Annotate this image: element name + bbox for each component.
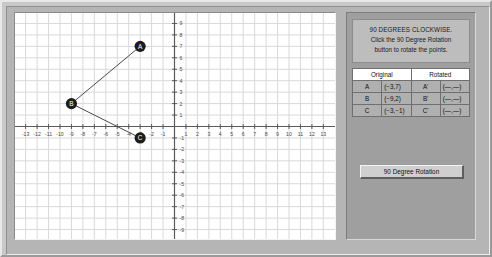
cell-rotated-coords: (—,—) (440, 92, 469, 104)
y-axis-tick-label: 2 (180, 101, 183, 107)
column-header-original: Original (353, 68, 412, 80)
x-axis-tick-label: 5 (230, 131, 233, 137)
cell-original-coords: (−3,−1) (382, 104, 411, 116)
row-label-rotated: A' (411, 80, 440, 92)
table-row: A(−3,7)A'(—,—) (353, 80, 470, 92)
coordinate-graph-panel[interactable]: -13-12-11-10-9-8-7-6-5-4-3-2-11234567891… (14, 12, 336, 240)
y-axis-tick-label: 4 (180, 78, 183, 84)
y-axis-tick-label: 1 (180, 112, 183, 118)
points-table: Original Rotated A(−3,7)A'(—,—)B(−9,2)B'… (352, 68, 470, 117)
x-axis-tick-label: -1 (161, 131, 166, 137)
y-axis-tick-label: -8 (180, 215, 185, 221)
x-axis-tick-label: 4 (219, 131, 222, 137)
x-axis-tick-label: -8 (81, 131, 86, 137)
y-axis-tick-label: -9 (180, 227, 185, 233)
y-axis-tick-label: -6 (180, 192, 185, 198)
row-label-original: A (353, 80, 382, 92)
x-axis-tick-label: -9 (69, 131, 74, 137)
x-axis-tick-label: 11 (298, 131, 303, 137)
coordinate-plane-svg[interactable]: -13-12-11-10-9-8-7-6-5-4-3-2-11234567891… (15, 13, 335, 239)
cell-original-coords: (−9,2) (382, 92, 411, 104)
application-window: -13-12-11-10-9-8-7-6-5-4-3-2-11234567891… (0, 0, 492, 257)
table-row: C(−3,−1)C'(—,—) (353, 104, 470, 116)
rotate-90-degree-button[interactable]: 90 Degree Rotation (360, 165, 464, 179)
data-point-label-b: B (69, 100, 73, 107)
x-axis-tick-label: 3 (207, 131, 210, 137)
table-row: B(−9,2)B'(—,—) (353, 92, 470, 104)
y-axis-tick-label: 7 (180, 43, 183, 49)
x-axis-tick-label: 2 (196, 131, 199, 137)
data-point-label-a: A (138, 43, 143, 50)
x-axis-tick-label: -5 (115, 131, 120, 137)
y-axis-tick-label: 9 (180, 20, 183, 26)
cell-rotated-coords: (—,—) (440, 104, 469, 116)
x-axis-tick-label: -2 (149, 131, 154, 137)
control-panel: 90 DEGREES CLOCKWISE. Click the 90 Degre… (346, 12, 476, 240)
column-header-rotated: Rotated (411, 68, 470, 80)
x-axis-tick-label: 6 (242, 131, 245, 137)
x-axis-tick-label: 9 (276, 131, 279, 137)
row-label-original: C (353, 104, 382, 116)
x-axis-tick-label: -12 (33, 131, 41, 137)
row-label-original: B (353, 92, 382, 104)
instruction-line-2: Click the 90 Degree Rotation (356, 35, 466, 45)
y-axis-tick-label: -5 (180, 181, 185, 187)
data-point-label-c: C (138, 134, 143, 141)
row-label-rotated: C' (411, 104, 440, 116)
instruction-title: 90 DEGREES CLOCKWISE. (356, 25, 466, 35)
x-axis-tick-label: 13 (320, 131, 326, 137)
y-axis-tick-label: -1 (180, 135, 185, 141)
y-axis-tick-label: -2 (180, 146, 185, 152)
cell-rotated-coords: (—,—) (440, 80, 469, 92)
x-axis-tick-label: 12 (309, 131, 315, 137)
row-label-rotated: B' (411, 92, 440, 104)
x-axis-tick-label: 7 (253, 131, 256, 137)
x-axis-tick-label: -6 (103, 131, 108, 137)
x-axis-tick-label: 10 (286, 131, 292, 137)
y-axis-tick-label: -4 (180, 169, 185, 175)
instruction-line-3: button to rotate the points. (356, 45, 466, 55)
instruction-box: 90 DEGREES CLOCKWISE. Click the 90 Degre… (352, 19, 470, 63)
y-axis-tick-label: 8 (180, 32, 183, 38)
y-axis-tick-label: -7 (180, 204, 185, 210)
y-axis-tick-label: 3 (180, 89, 183, 95)
table-body: A(−3,7)A'(—,—)B(−9,2)B'(—,—)C(−3,−1)C'(—… (353, 80, 470, 116)
y-axis-tick-label: 5 (180, 66, 183, 72)
x-axis-tick-label: -10 (56, 131, 64, 137)
y-axis-tick-label: -3 (180, 158, 185, 164)
cell-original-coords: (−3,7) (382, 80, 411, 92)
x-axis-tick-label: -11 (45, 131, 52, 137)
y-axis-tick-label: 6 (180, 55, 183, 61)
x-axis-tick-label: 8 (265, 131, 268, 137)
table-header-row: Original Rotated (353, 68, 470, 80)
x-axis-tick-label: 1 (185, 131, 188, 137)
x-axis-tick-label: -13 (22, 131, 30, 137)
x-axis-tick-label: -7 (92, 131, 97, 137)
